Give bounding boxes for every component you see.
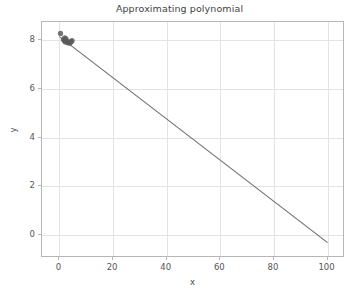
x-tick-label-20: 20 (97, 262, 127, 272)
x-axis-label: x (41, 277, 344, 287)
scatter-points (58, 31, 75, 46)
x-tick-label-0: 0 (43, 262, 73, 272)
x-tick-mark (58, 257, 59, 260)
x-tick-label-60: 60 (204, 262, 234, 272)
y-tick-label-6: 6 (9, 83, 35, 93)
x-tick-mark (327, 257, 328, 260)
y-tick-mark (38, 234, 41, 235)
y-tick-label-0: 0 (9, 229, 35, 239)
x-tick-label-80: 80 (258, 262, 288, 272)
x-tick-mark (112, 257, 113, 260)
fit-line-path (59, 37, 327, 243)
y-tick-label-8: 8 (9, 34, 35, 44)
fit-line (59, 37, 327, 243)
x-tick-label-40: 40 (151, 262, 181, 272)
chart-title: Approximating polynomial (0, 3, 359, 14)
scatter-point (69, 38, 74, 43)
x-tick-label-100: 100 (312, 262, 342, 272)
scatter-point (64, 36, 69, 41)
y-tick-mark (38, 39, 41, 40)
x-tick-mark (166, 257, 167, 260)
data-layer (42, 22, 344, 257)
y-tick-mark (38, 185, 41, 186)
scatter-point (58, 31, 63, 36)
x-tick-mark (273, 257, 274, 260)
y-tick-mark (38, 137, 41, 138)
y-tick-mark (38, 88, 41, 89)
chart-figure: Approximating polynomial 02468 020406080… (0, 0, 359, 297)
y-tick-label-2: 2 (9, 180, 35, 190)
y-axis-label: y (8, 115, 18, 145)
plot-area (41, 21, 344, 257)
x-tick-mark (219, 257, 220, 260)
